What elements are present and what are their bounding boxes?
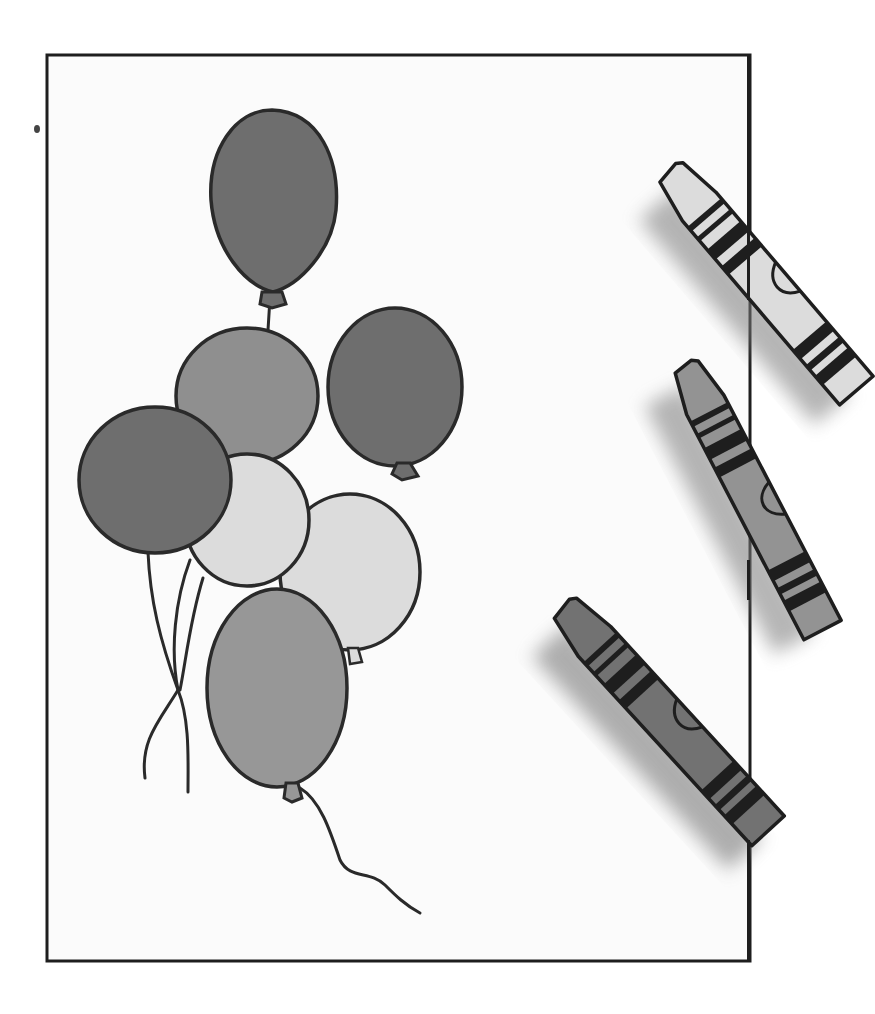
balloon-left	[79, 407, 231, 553]
ink-dot	[34, 125, 40, 133]
illustration	[0, 0, 875, 1014]
